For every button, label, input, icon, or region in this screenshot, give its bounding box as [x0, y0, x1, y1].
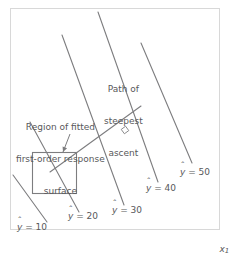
- contour-value: 10: [36, 222, 47, 232]
- contour-equals: =: [73, 211, 86, 221]
- region-annotation-line1: Region of fitted: [16, 122, 105, 133]
- y-hat-symbol: yˆ: [112, 205, 117, 216]
- contour-equals: =: [22, 222, 35, 232]
- y-hat-symbol: yˆ: [68, 211, 73, 222]
- response-surface-contour-figure: Region of fitted first-order response su…: [0, 0, 230, 253]
- contour-label-50: yˆ = 50: [180, 167, 210, 178]
- contour-equals: =: [117, 205, 130, 215]
- x-axis-label: x1: [208, 233, 229, 253]
- contour-label-20: yˆ = 20: [68, 211, 98, 222]
- y-hat-symbol: yˆ: [17, 222, 22, 233]
- hat-accent: ˆ: [68, 205, 73, 216]
- contour-value: 40: [165, 183, 176, 193]
- region-annotation-line2: first-order response: [16, 154, 105, 165]
- contour-label-10: yˆ = 10: [17, 222, 47, 233]
- path-annotation-line2: steepest: [104, 116, 143, 127]
- hat-accent: ˆ: [146, 177, 151, 188]
- contour-equals: =: [151, 183, 164, 193]
- contour-label-30: yˆ = 30: [112, 205, 142, 216]
- hat-accent: ˆ: [180, 161, 185, 172]
- hat-accent: ˆ: [112, 199, 117, 210]
- contour-value: 20: [87, 211, 98, 221]
- contour-value: 30: [131, 205, 142, 215]
- contour-label-40: yˆ = 40: [146, 183, 176, 194]
- y-hat-symbol: yˆ: [146, 183, 151, 194]
- contour-value: 50: [199, 167, 210, 177]
- contour-equals: =: [185, 167, 198, 177]
- path-annotation-line3: ascent: [104, 148, 143, 159]
- y-hat-symbol: yˆ: [180, 167, 185, 178]
- region-annotation: Region of fitted first-order response su…: [16, 101, 105, 218]
- path-annotation: Path of steepest ascent: [104, 63, 143, 180]
- path-annotation-line1: Path of: [104, 84, 143, 95]
- hat-accent: ˆ: [17, 216, 22, 227]
- x-axis-label-subscript: 1: [225, 247, 229, 253]
- region-annotation-line3: surface: [16, 186, 105, 197]
